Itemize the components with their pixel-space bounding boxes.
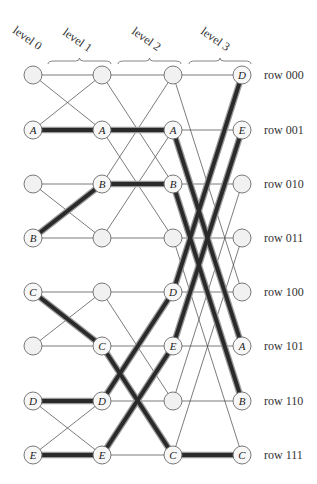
level-label: level 1 [60,25,95,55]
row-label: row 000 [264,68,304,82]
level-labels: level 0level 1level 2level 3 [10,23,233,55]
node-label: E [98,449,106,461]
node-label: C [238,449,246,461]
node-label: C [29,286,37,298]
node-label: A [238,340,246,352]
node-A: A [24,121,42,139]
node-circle [164,66,182,84]
node-C: C [24,283,42,301]
node-label: B [30,232,37,244]
node-empty [233,229,251,247]
node-B: B [164,175,182,193]
node-C: C [164,446,182,464]
row-label: row 110 [264,394,303,408]
node-A: A [93,121,111,139]
node-circle [93,229,111,247]
level-label: level 0 [10,23,45,53]
level-braces [48,58,251,64]
packet-B-path-halo [33,184,242,401]
node-empty [24,175,42,193]
node-circle [233,283,251,301]
level-brace [189,58,251,64]
row-labels: row 000row 001row 010row 011row 100row 1… [264,68,304,462]
node-circle [24,175,42,193]
node-label: C [98,340,106,352]
node-B: B [24,229,42,247]
node-C: C [233,446,251,464]
node-circle [164,229,182,247]
node-circle [233,175,251,193]
node-B: B [233,392,251,410]
node-empty [233,283,251,301]
node-D: D [93,392,111,410]
row-label: row 010 [264,177,304,191]
node-E: E [233,121,251,139]
node-label: E [29,449,37,461]
node-circle [24,66,42,84]
node-empty [93,229,111,247]
node-circle [233,229,251,247]
node-label: D [97,395,106,407]
node-B: B [93,175,111,193]
level-brace [48,58,111,64]
node-empty [93,283,111,301]
node-label: B [99,178,106,190]
level-brace [118,58,181,64]
row-label: row 001 [264,123,304,137]
node-D: D [233,66,251,84]
node-circle [93,66,111,84]
packet-paths [33,75,242,455]
node-label: C [169,449,177,461]
node-label: B [170,178,177,190]
row-label: row 111 [264,448,303,462]
node-label: E [169,340,177,352]
node-label: D [28,395,37,407]
node-label: A [29,124,37,136]
node-empty [164,229,182,247]
node-circle [24,337,42,355]
node-empty [164,392,182,410]
node-label: D [168,286,177,298]
level-label: level 3 [198,24,233,54]
node-E: E [24,446,42,464]
node-E: E [164,337,182,355]
node-label: A [169,124,177,136]
node-circle [93,283,111,301]
node-circle [164,392,182,410]
node-label: D [237,69,246,81]
node-empty [93,66,111,84]
row-label: row 100 [264,285,304,299]
node-label: B [239,395,246,407]
node-A: A [164,121,182,139]
node-empty [24,66,42,84]
node-label: A [98,124,106,136]
node-empty [24,337,42,355]
node-empty [164,66,182,84]
node-C: C [93,337,111,355]
row-label: row 011 [264,231,303,245]
node-E: E [93,446,111,464]
row-label: row 101 [264,339,304,353]
level-label: level 2 [129,24,164,54]
node-label: E [238,124,246,136]
node-D: D [24,392,42,410]
node-D: D [164,283,182,301]
node-A: A [233,337,251,355]
butterfly-network-diagram: level 0level 1level 2level 3 ABCDEABCDEA… [0,0,317,484]
node-empty [233,175,251,193]
